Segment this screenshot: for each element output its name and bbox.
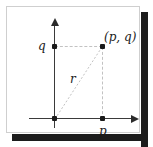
label-q: q — [38, 40, 46, 52]
label-p: p — [99, 125, 107, 137]
label-point-pq: (p, q) — [104, 31, 136, 43]
figure-canvas: q p r (p, q) — [0, 0, 153, 147]
point-y-projection — [52, 44, 57, 49]
y-axis-arrow-icon — [51, 18, 59, 26]
plot-panel: q p r (p, q) — [6, 6, 140, 133]
point-pq — [100, 44, 105, 49]
label-r: r — [70, 73, 76, 85]
radius-line — [47, 39, 111, 127]
panel-shadow-right — [141, 12, 148, 147]
point-x-projection — [100, 116, 105, 121]
panel-shadow-bottom — [12, 134, 148, 141]
point-origin — [52, 116, 57, 121]
x-axis-arrow-icon — [131, 115, 139, 123]
